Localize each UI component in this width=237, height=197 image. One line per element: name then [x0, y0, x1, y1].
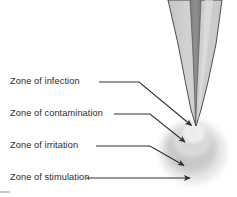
- zone-label-infection: Zone of infection: [10, 76, 80, 87]
- zone-label-stimulation: Zone of stimulation: [10, 172, 90, 183]
- zone-label-contamination: Zone of contamination: [10, 108, 103, 119]
- instrument-tip: [168, 0, 222, 126]
- zone-infection-shape: [183, 123, 205, 143]
- zone-infection-group: [183, 123, 205, 143]
- zone-diagram-figure: Zone of infection Zone of contamination …: [0, 0, 237, 197]
- zone-label-irritation: Zone of irritation: [10, 140, 78, 151]
- diagram-canvas: [0, 0, 237, 197]
- arrow-infection: [99, 82, 192, 126]
